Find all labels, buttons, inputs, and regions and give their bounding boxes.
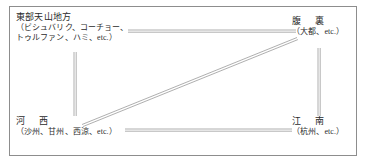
node-title: 江南 — [292, 116, 344, 127]
node-title: 河西 — [16, 116, 117, 127]
node-title-char2: 裏 — [315, 16, 324, 26]
edge-right — [318, 48, 320, 116]
node-title: 腹裏 — [292, 16, 344, 27]
node-subtitle-line1: （杭州、etc.） — [292, 127, 344, 137]
node-title-char2: 南 — [315, 116, 324, 126]
node-fukuri: 腹裏 （大都、etc.） — [292, 16, 344, 37]
edge-diagonal — [82, 38, 298, 127]
edge-left — [74, 52, 76, 116]
edge-top — [128, 30, 296, 32]
node-hexi: 河西 （沙州、甘州、西涼、etc.） — [16, 116, 117, 137]
node-title-char1: 河 — [16, 116, 25, 126]
node-jiangnan: 江南 （杭州、etc.） — [292, 116, 344, 137]
node-title-char1: 腹 — [292, 16, 301, 26]
node-title: 東部天山地方 — [16, 12, 128, 23]
diagram-canvas: 東部天山地方 （ビシュバリク、コーチョー、 トゥルファン、ハミ、etc.） 腹裏… — [0, 0, 366, 164]
node-subtitle-line2: トゥルファン、ハミ、etc.） — [16, 33, 128, 43]
node-title-char2: 西 — [39, 116, 48, 126]
node-subtitle-line1: （沙州、甘州、西涼、etc.） — [16, 127, 117, 137]
node-eastern-tianshan: 東部天山地方 （ビシュバリク、コーチョー、 トゥルファン、ハミ、etc.） — [16, 12, 128, 42]
node-subtitle-line1: （ビシュバリク、コーチョー、 — [16, 23, 128, 33]
node-title-char1: 江 — [292, 116, 301, 126]
edge-bottom — [125, 129, 292, 131]
node-subtitle-line1: （大都、etc.） — [292, 27, 344, 37]
